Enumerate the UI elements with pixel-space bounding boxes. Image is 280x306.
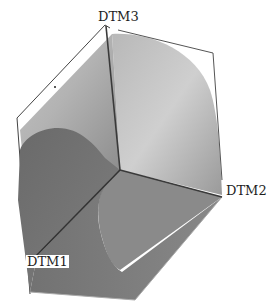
datum-label-dtm2[interactable]: DTM2 — [226, 184, 267, 197]
datum-label-dtm1[interactable]: DTM1 — [26, 255, 69, 268]
surface-marker — [54, 86, 56, 88]
model-top-right-surface[interactable] — [112, 34, 222, 195]
model-viewport[interactable]: DTM3 DTM2 DTM1 — [0, 0, 280, 306]
datum-label-dtm3[interactable]: DTM3 — [98, 10, 139, 23]
